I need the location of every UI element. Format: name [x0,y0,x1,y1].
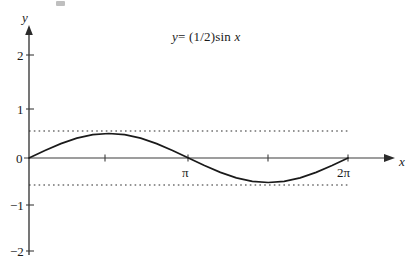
axis-group [24,25,395,255]
y-axis-arrowhead [25,25,33,35]
figure-container: y= (1/2)sin x y x 2 1 0 −1 −2 π 2π [0,0,416,266]
plot-area [0,0,416,266]
y-tick-marks [26,55,34,251]
x-axis-arrowhead [384,154,395,162]
